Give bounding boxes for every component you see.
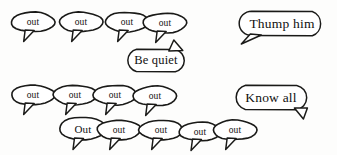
balloon-outline-icon bbox=[142, 12, 188, 34]
balloon-outline-icon bbox=[96, 119, 142, 141]
balloon-outline-icon bbox=[10, 84, 56, 106]
balloon-outline-icon bbox=[212, 119, 258, 141]
balloon-outline-icon bbox=[132, 85, 178, 107]
balloon-outline-icon bbox=[232, 84, 310, 111]
speech-balloon-out-r2-4: out bbox=[132, 85, 178, 107]
speech-balloon-thump-him: Thump him bbox=[238, 10, 326, 37]
balloon-outline-icon bbox=[10, 11, 56, 33]
speech-balloon-know-all: Know all bbox=[232, 84, 310, 111]
speech-balloon-out-r1-1: out bbox=[10, 11, 56, 33]
balloon-outline-icon bbox=[58, 11, 104, 33]
speech-balloon-out-r1-4: out bbox=[142, 12, 188, 34]
speech-balloon-out-r3-5: out bbox=[212, 119, 258, 141]
speech-balloon-out-r1-2: out bbox=[58, 11, 104, 33]
balloon-outline-icon bbox=[124, 48, 188, 73]
speech-balloon-out-r3-2: out bbox=[96, 119, 142, 141]
speech-balloon-be-quiet: Be quiet bbox=[124, 48, 188, 73]
balloon-outline-icon bbox=[238, 10, 326, 37]
speech-balloon-out-r2-1: out bbox=[10, 84, 56, 106]
speech-balloon-scene: outoutoutoutThump himBe quietoutoutoutou… bbox=[0, 0, 337, 155]
